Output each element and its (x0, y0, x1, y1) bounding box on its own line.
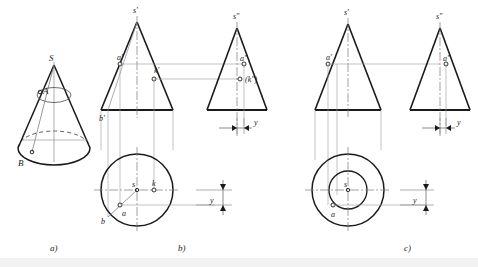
panel-c-label-a-side: a" (443, 54, 451, 63)
side-left-slant (207, 28, 237, 110)
panel-b-label-k-side: (k") (245, 75, 258, 84)
top-y-arrow-up (220, 184, 226, 190)
panel-b-top-view: s k a b y (94, 147, 232, 233)
top-point-k-marker (152, 188, 156, 192)
panel-c-front-view: s' a' (315, 8, 440, 205)
panel-b-label-y-side: y (253, 118, 258, 127)
panel-c-top-y-dimension: y (400, 180, 434, 215)
side-right-slant (237, 28, 267, 110)
panel-c-side-y-dimension: y (422, 118, 461, 134)
panel-b-label-y-top: y (209, 196, 214, 205)
panel-a-label-A: A (42, 86, 49, 96)
panel-b-label-s-front: s' (133, 6, 138, 15)
panel-b-label-k-top: k (152, 179, 156, 188)
panel-b-label-s-top: s (132, 180, 135, 189)
panel-c-label-a-top: a (331, 210, 335, 219)
panel-a-pictorial-cone: S A B (18, 53, 90, 168)
footer-bar (0, 258, 478, 267)
panel-b-label-b-front: b' (99, 114, 105, 123)
c-side-left-slant (410, 28, 440, 110)
panel-a-label-B: B (18, 158, 24, 168)
panel-c-label-s-top: s (344, 180, 347, 189)
c-side-right-slant (440, 28, 470, 110)
c-side-y-arrow-right (446, 125, 451, 131)
technical-drawing-figure: S A B s' a' (0, 0, 478, 267)
side-y-arrow-left (232, 125, 237, 131)
c-top-y-arrow-down (423, 205, 429, 211)
side-point-k-marker (238, 77, 242, 81)
panel-b-label-b-top: b (101, 217, 105, 226)
panel-b-side-y-dimension: y (219, 118, 258, 134)
panel-c-projections: s' a' s" a" y (305, 8, 470, 233)
panel-c-label-y-side: y (456, 118, 461, 127)
drawing-canvas: S A B s' a' (0, 0, 478, 267)
caption-a: a) (50, 243, 58, 253)
panel-b-label-a-side: a" (240, 54, 248, 63)
panel-c-label-y-top: y (412, 196, 417, 205)
top-y-arrow-down (220, 205, 226, 211)
cone-right-slant (54, 65, 90, 148)
panel-b-label-a-top: a (122, 209, 126, 218)
side-y-arrow-right (244, 125, 249, 131)
front-generator-sb (108, 22, 137, 110)
panel-c-label-a-front: a' (326, 53, 332, 62)
panel-c-top-view: s a y (305, 147, 434, 233)
panel-b-top-y-dimension: y (196, 180, 232, 215)
panel-a-label-S: S (49, 53, 54, 63)
c-side-y-arrow-left (435, 125, 440, 131)
panel-b-side-view: s" a" (k") y (207, 12, 267, 138)
panel-c-label-s-side: s" (436, 12, 443, 21)
panel-b-label-a-front: a' (117, 53, 123, 62)
c-front-left-slant (315, 24, 348, 110)
c-front-right-slant (348, 24, 381, 110)
caption-b: b) (178, 243, 186, 253)
panel-b-projections: s' a' k' b' s" a" (k") y (94, 6, 267, 233)
panel-c-side-view: s" a" y (410, 12, 470, 138)
panel-b-label-k-front: k' (154, 66, 160, 75)
panel-b-label-s-side: s" (233, 12, 240, 21)
panel-c-label-s-front: s' (344, 8, 349, 17)
c-top-y-arrow-up (423, 184, 429, 190)
caption-c: c) (404, 243, 411, 253)
